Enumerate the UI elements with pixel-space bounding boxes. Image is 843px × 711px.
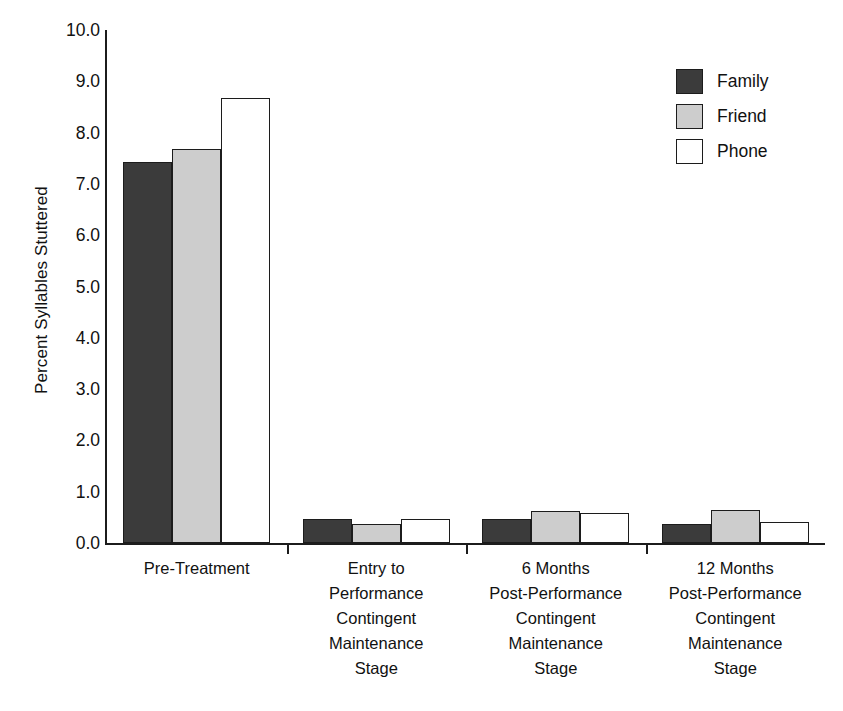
x-axis-group-label: 12 MonthsPost-PerformanceContingentMaint… xyxy=(646,556,826,681)
bar xyxy=(401,519,450,543)
x-axis-line xyxy=(105,543,825,545)
x-axis-tick xyxy=(466,545,468,554)
y-axis-tick-labels: 0.01.02.03.04.05.06.07.08.09.010.0 xyxy=(28,0,100,711)
bar xyxy=(123,162,172,543)
x-axis-group-label-line: Stage xyxy=(287,656,467,681)
x-axis-group-label-line: Maintenance xyxy=(646,631,826,656)
x-axis-tick xyxy=(287,545,289,554)
x-axis-group-label-line: Maintenance xyxy=(287,631,467,656)
y-axis-tick-label: 7.0 xyxy=(28,175,100,193)
x-axis-group-label-line: Maintenance xyxy=(466,631,646,656)
bar xyxy=(760,522,809,543)
y-axis-tick-label: 6.0 xyxy=(28,226,100,244)
x-axis-group-label-line: Performance xyxy=(287,581,467,606)
y-axis-tick-label: 10.0 xyxy=(28,21,100,39)
bar xyxy=(221,98,270,543)
legend-color-swatch xyxy=(676,104,703,129)
y-axis-tick-label: 3.0 xyxy=(28,380,100,398)
bar xyxy=(303,519,352,543)
x-axis-group-label-line: Contingent xyxy=(466,606,646,631)
x-axis-group-label-line: Entry to xyxy=(287,556,467,581)
x-axis-group-label-line: Post-Performance xyxy=(466,581,646,606)
x-axis-group-label: Entry toPerformanceContingentMaintenance… xyxy=(287,556,467,681)
y-axis-tick-label: 4.0 xyxy=(28,329,100,347)
legend-color-swatch xyxy=(676,69,703,94)
x-axis-tick xyxy=(646,545,648,554)
x-axis-group-label-line: Stage xyxy=(646,656,826,681)
x-axis-group-label-line: Stage xyxy=(466,656,646,681)
y-axis-tick-label: 5.0 xyxy=(28,278,100,296)
x-axis-group-label-line: Pre-Treatment xyxy=(107,556,287,581)
x-axis-group-label: 6 MonthsPost-PerformanceContingentMainte… xyxy=(466,556,646,681)
legend-item-label: Phone xyxy=(717,141,768,162)
legend-item: Friend xyxy=(676,99,836,134)
legend-color-swatch xyxy=(676,139,703,164)
x-axis-group-label-line: Post-Performance xyxy=(646,581,826,606)
y-axis-tick-label: 8.0 xyxy=(28,124,100,142)
bar xyxy=(172,149,221,543)
y-axis-tick-label: 1.0 xyxy=(28,483,100,501)
bar xyxy=(482,519,531,543)
y-axis-tick-label: 9.0 xyxy=(28,72,100,90)
x-axis-group-label-line: Contingent xyxy=(287,606,467,631)
y-axis-tick-label: 2.0 xyxy=(28,431,100,449)
legend-item: Phone xyxy=(676,134,836,169)
x-axis-group-label-line: Contingent xyxy=(646,606,826,631)
legend-item-label: Family xyxy=(717,71,769,92)
bar xyxy=(352,524,401,543)
y-axis-tick-label: 0.0 xyxy=(28,534,100,552)
x-axis-group-label-line: 12 Months xyxy=(646,556,826,581)
bar xyxy=(580,513,629,543)
legend-item-label: Friend xyxy=(717,106,767,127)
bar-chart-figure: Percent Syllables Stuttered 0.01.02.03.0… xyxy=(0,0,843,711)
x-axis-group-label: Pre-Treatment xyxy=(107,556,287,581)
bar xyxy=(662,524,711,543)
bar xyxy=(531,511,580,543)
legend: FamilyFriendPhone xyxy=(676,64,836,169)
bar xyxy=(711,510,760,543)
legend-item: Family xyxy=(676,64,836,99)
x-axis-group-label-line: 6 Months xyxy=(466,556,646,581)
